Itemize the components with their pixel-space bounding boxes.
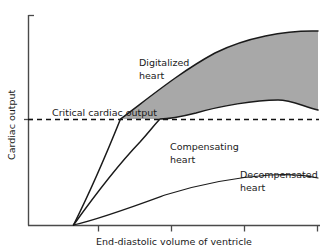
decompensated-heart-curve: [74, 175, 319, 225]
compensating-heart-label-line2: heart: [170, 154, 196, 165]
x-axis-title: End-diastolic volume of ventricle: [96, 236, 252, 247]
digitalized-heart-label-line2: heart: [139, 70, 165, 81]
cardiac-function-curve-figure: Cardiac output End-diastolic volume of v…: [0, 0, 332, 251]
decompensated-heart-label-line2: heart: [240, 182, 266, 193]
decompensated-heart-label-line1: Decompensated: [240, 169, 318, 180]
critical-cardiac-output-label: Critical cardiac output: [52, 107, 157, 118]
y-axis-title: Cardiac output: [6, 89, 17, 160]
chart-canvas: Cardiac output End-diastolic volume of v…: [0, 0, 332, 251]
digitalized-heart-label-line1: Digitalized: [139, 57, 189, 68]
compensating-heart-label-line1: Compensating: [170, 141, 239, 152]
